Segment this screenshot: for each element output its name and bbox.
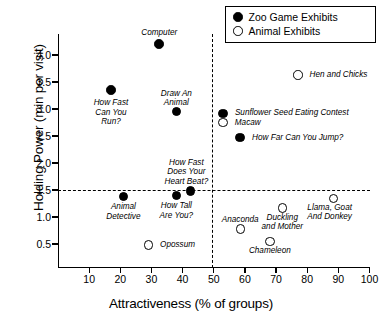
legend-item-zoo-game-exhibits: Zoo Game Exhibits — [233, 10, 370, 24]
data-point — [144, 240, 153, 249]
x-tick-label: 60 — [232, 273, 258, 285]
legend-item-animal-exhibits: Animal Exhibits — [233, 24, 370, 38]
x-tick-label: 30 — [138, 273, 164, 285]
data-point — [218, 118, 227, 127]
data-point — [154, 39, 164, 49]
x-tick-label: 40 — [170, 273, 196, 285]
data-point-label: Draw An Animal — [0, 89, 367, 108]
chart-legend: Zoo Game Exhibits Animal Exhibits — [225, 6, 376, 43]
data-point-label: How Far Can You Jump? — [252, 133, 343, 142]
y-tick-label: 0.5 — [27, 238, 51, 250]
data-point — [235, 133, 245, 143]
legend-label: Zoo Game Exhibits — [249, 11, 338, 23]
data-point — [265, 237, 274, 246]
data-point-label: Hen and Chicks — [310, 70, 368, 79]
open-circle-icon — [233, 26, 243, 36]
x-tick-label: 80 — [294, 273, 320, 285]
x-tick-label: 10 — [76, 273, 102, 285]
y-tick-label: 2.5 — [27, 130, 51, 142]
x-tick-label: 70 — [263, 273, 289, 285]
y-tick — [52, 81, 58, 82]
x-tick-label: 90 — [325, 273, 351, 285]
legend-label: Animal Exhibits — [249, 25, 321, 37]
filled-circle-icon — [233, 12, 243, 22]
y-tick-label: 4.0 — [27, 49, 51, 61]
data-point-label: Anaconda — [49, 215, 382, 224]
data-point-label: Sunflower Seed Eating Contest — [235, 108, 349, 117]
x-tick-label: 50 — [201, 273, 227, 285]
data-point — [236, 224, 245, 233]
data-point-label: Macaw — [235, 118, 261, 127]
data-point — [278, 203, 287, 212]
data-point-label: Chameleon — [79, 246, 382, 255]
y-axis-line — [58, 34, 59, 268]
data-point — [218, 109, 228, 119]
y-tick-label: 3.5 — [27, 76, 51, 88]
y-tick — [52, 243, 58, 244]
x-tick-label: 20 — [107, 273, 133, 285]
data-point-label: How Fast Does Your Heart Beat? — [0, 158, 377, 186]
data-point — [186, 186, 196, 196]
scatter-chart: Holding Power (min per visit) Attractive… — [0, 0, 382, 324]
x-axis-title: Attractiveness (% of groups) — [0, 296, 382, 311]
y-tick — [52, 135, 58, 136]
data-point — [172, 191, 182, 201]
y-tick — [52, 54, 58, 55]
data-point — [106, 85, 116, 95]
data-point-label: Opossum — [160, 240, 195, 249]
horizontal-reference-line — [58, 190, 370, 191]
data-point — [293, 70, 302, 79]
vertical-reference-line — [212, 34, 213, 268]
data-point — [119, 192, 129, 202]
x-tick-label: 100 — [357, 273, 382, 285]
